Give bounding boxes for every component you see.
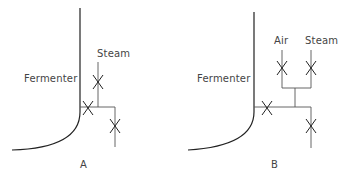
- air-label: Air: [274, 35, 289, 46]
- panel-b: Air Steam Fermenter B: [188, 12, 338, 170]
- fermenter-valve-diagram: Steam Fermenter A Air Steam Fermenter B: [0, 0, 352, 177]
- steam-label: Steam: [97, 48, 130, 59]
- valve-icon: [262, 101, 272, 115]
- panel-caption: B: [271, 159, 278, 170]
- fermenter-label: Fermenter: [24, 73, 78, 84]
- fermenter-label: Fermenter: [197, 73, 251, 84]
- panel-caption: A: [80, 159, 87, 170]
- steam-label: Steam: [305, 35, 338, 46]
- valve-icon: [83, 101, 93, 115]
- panel-a: Steam Fermenter A: [12, 8, 130, 170]
